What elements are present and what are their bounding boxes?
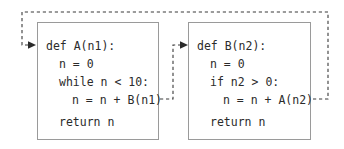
code-lines-a: def A(n1): n = 0 while n < 10: n = n + B… xyxy=(38,23,158,139)
arrow-a-calls-b xyxy=(160,45,182,99)
code-line: n = 0 xyxy=(210,58,245,70)
arrowhead-into-def-b-icon xyxy=(180,41,188,49)
code-lines-b: def B(n2): n = 0 if n2 > 0: n = n + A(n2… xyxy=(189,23,310,139)
code-line: return n xyxy=(59,116,114,128)
code-line: def B(n2): xyxy=(197,40,266,52)
code-line: return n xyxy=(210,116,265,128)
code-line: def A(n1): xyxy=(46,40,115,52)
code-block-function-a: def A(n1): n = 0 while n < 10: n = n + B… xyxy=(37,22,159,140)
code-line: while n < 10: xyxy=(59,76,149,88)
code-line: n = 0 xyxy=(59,58,94,70)
code-block-function-b: def B(n2): n = 0 if n2 > 0: n = n + A(n2… xyxy=(188,22,311,140)
code-line: if n2 > 0: xyxy=(210,76,279,88)
code-line: n = n + A(n2) xyxy=(223,94,313,106)
diagram-canvas: def A(n1): n = 0 while n < 10: n = n + B… xyxy=(0,0,344,149)
code-line: n = n + B(n1) xyxy=(72,94,162,106)
arrowhead-into-def-a-icon xyxy=(28,41,36,49)
